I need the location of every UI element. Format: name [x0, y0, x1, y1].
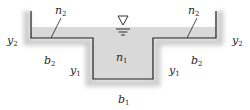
label-b2-right: b2 — [191, 55, 203, 68]
label-b2-left: b2 — [44, 55, 56, 68]
label-n1: n1 — [116, 52, 128, 65]
label-y2-right: y2 — [232, 35, 243, 48]
label-y1-left: y1 — [70, 65, 81, 78]
label-y1-right: y1 — [169, 65, 180, 78]
label-b1: b1 — [118, 94, 130, 107]
label-n2-left: n2 — [55, 5, 67, 18]
label-n2-right: n2 — [188, 5, 200, 18]
label-y2-left: y2 — [7, 35, 18, 48]
